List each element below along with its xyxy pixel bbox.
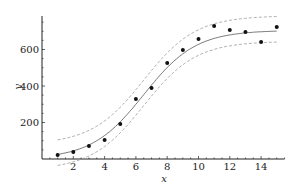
x-tick-label: 14 [255, 161, 268, 172]
x-tick-label: 8 [164, 161, 170, 172]
confidence-bands [58, 17, 277, 166]
x-tick-label: 6 [133, 161, 139, 172]
upper-band-line [58, 17, 277, 140]
x-tick-label: 2 [70, 161, 76, 172]
data-point [150, 86, 154, 90]
data-point [228, 28, 232, 32]
fit-curve [58, 31, 277, 154]
y-tick-label: 200 [20, 117, 39, 128]
data-point [181, 48, 185, 52]
data-point [103, 138, 107, 142]
y-axis-label: y [12, 84, 23, 91]
fit-line [58, 31, 277, 154]
data-point [134, 97, 138, 101]
data-point [56, 153, 60, 157]
data-point [118, 122, 122, 126]
data-point [71, 150, 75, 154]
y-tick-label: 600 [20, 44, 39, 55]
data-point [259, 40, 263, 44]
data-point [275, 25, 279, 29]
data-point [197, 37, 201, 41]
x-tick-label: 12 [223, 161, 236, 172]
data-point [165, 61, 169, 65]
x-tick-label: 4 [101, 161, 107, 172]
x-tick-label: 10 [192, 161, 205, 172]
logistic-fit-chart: 2468101214200400600 x y [0, 0, 295, 189]
data-point [212, 24, 216, 28]
x-axis-label: x [161, 173, 167, 184]
axes: 2468101214200400600 [20, 16, 285, 172]
data-point [87, 144, 91, 148]
data-point [243, 30, 247, 34]
